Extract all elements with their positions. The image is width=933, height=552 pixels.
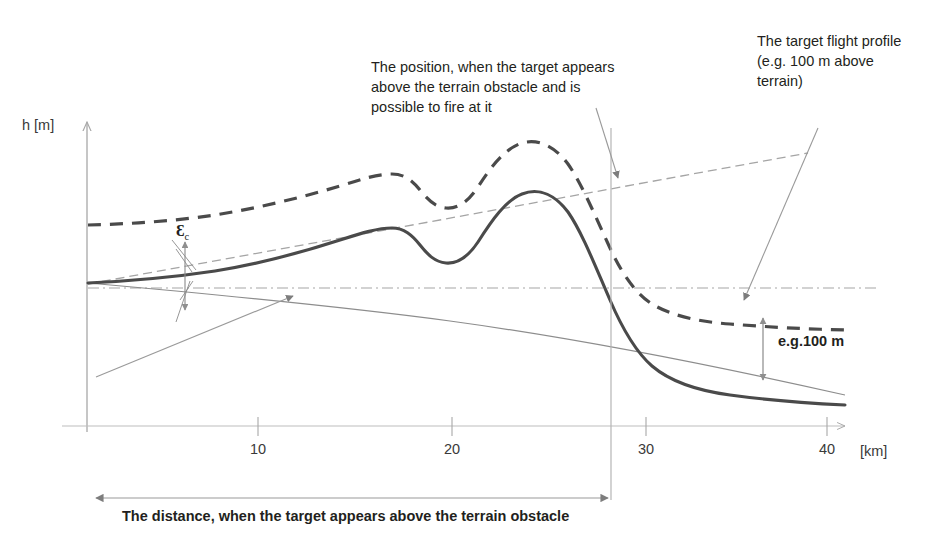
x-axis-unit-label: [km] xyxy=(860,443,887,459)
position-annotation: The position, when the target appears ab… xyxy=(371,57,636,117)
terrain-profile-curve xyxy=(88,192,845,405)
x-tick-label-10: 10 xyxy=(250,441,266,457)
terrain-masking-diagram: The position, when the target appears ab… xyxy=(0,0,933,552)
y-axis-label: h [m] xyxy=(22,117,54,133)
flight-profile-leader xyxy=(744,128,818,300)
position-note-leader xyxy=(596,108,618,178)
x-tick-label-20: 20 xyxy=(444,441,460,457)
epsilon-angle-label: Ɛc xyxy=(176,222,189,242)
x-tick-label-30: 30 xyxy=(638,441,654,457)
clearance-gap-label: e.g.100 m xyxy=(778,333,844,349)
distance-caption: The distance, when the target appears ab… xyxy=(122,508,569,524)
x-tick-label-40: 40 xyxy=(819,441,835,457)
epsilon-subscript: c xyxy=(184,231,189,242)
lower-sight-line xyxy=(88,283,845,395)
flight-profile-annotation: The target flight profile (e.g. 100 m ab… xyxy=(757,31,917,91)
epsilon-angle-marker xyxy=(172,240,196,322)
terrain-leader xyxy=(96,296,293,377)
target-flight-profile-curve xyxy=(88,142,845,330)
axis-group xyxy=(62,122,845,436)
